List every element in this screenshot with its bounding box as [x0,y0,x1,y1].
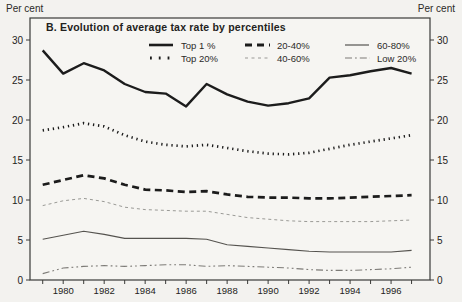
legend-marker-solid-thick-icon [148,41,174,49]
y-axis-label-right: 20 [437,115,449,126]
legend-label-top-20: Top 20% [181,53,218,64]
y-axis-label-right: 10 [437,195,449,206]
legend-item-top-20: Top 20% [148,52,244,64]
legend-item-low-20: Low 20% [344,52,448,64]
x-axis-label: 1996 [380,285,401,296]
legend-marker-dashed-thin-icon [244,54,270,62]
y-axis-label-left: 20 [12,115,24,126]
y-axis-label-left: 15 [12,155,24,166]
x-axis-label: 1990 [258,285,279,296]
y-axis-label-right: 25 [437,75,449,86]
x-axis-label: 1982 [94,285,115,296]
y-axis-label-right: 5 [437,235,443,246]
legend-label-top-1-percent: Top 1 % [181,40,215,51]
legend-item-40-60: 40-60% [244,52,344,64]
legend-marker-dashdot-icon [344,54,370,62]
y-axis-label-left: 10 [12,195,24,206]
y-axis-label-right: 15 [437,155,449,166]
legend-label-60-80: 60-80% [377,40,410,51]
legend-label-low-20: Low 20% [377,53,416,64]
x-axis-label: 1984 [135,285,156,296]
x-axis-label: 1980 [53,285,74,296]
chart-title: B. Evolution of average tax rate by perc… [46,21,286,33]
x-axis-label: 1992 [299,285,320,296]
x-axis-label: 1988 [217,285,238,296]
legend-marker-dashed-thick-icon [244,41,270,49]
legend-label-40-60: 40-60% [277,53,310,64]
legend-marker-dotted-bold-icon [148,54,174,62]
legend-item-60-80: 60-80% [344,39,448,51]
y-axis-label-left: 25 [12,75,24,86]
y-axis-label-left: 0 [17,275,23,286]
y-axis-label-left: 30 [12,35,24,46]
page-root: Per cent Per cent 0055101015152020252530… [0,0,462,302]
y-axis-label-left: 5 [17,235,23,246]
chart-legend: Top 1 % 20-40% 60-80% Top 20% 40-60% [148,39,448,64]
legend-item-20-40: 20-40% [244,39,344,51]
legend-item-top-1-percent: Top 1 % [148,39,244,51]
x-axis-label: 1994 [340,285,361,296]
x-axis-label: 1986 [176,285,197,296]
legend-marker-solid-thin-icon [344,41,370,49]
legend-label-20-40: 20-40% [277,40,310,51]
y-axis-label-right: 0 [437,275,443,286]
